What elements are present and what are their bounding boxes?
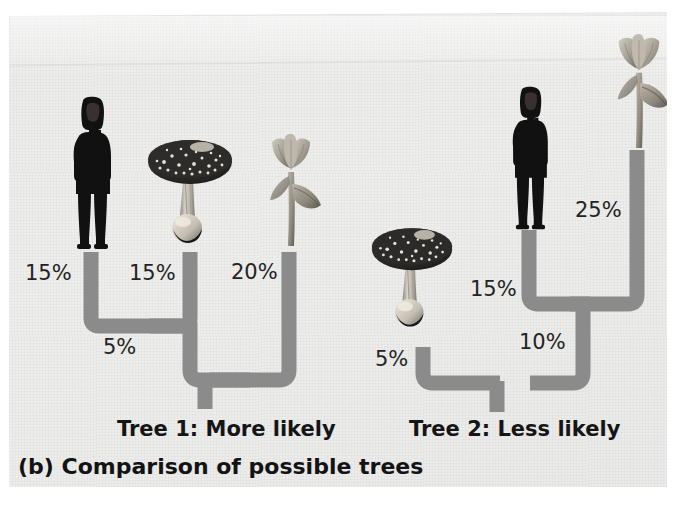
paper-edge-left [0, 0, 9, 507]
mushroom-icon [146, 125, 236, 253]
branch-label-tree2-tulip: 25% [575, 200, 622, 221]
tree-2-caption: Tree 2: Less likely [409, 419, 620, 440]
mushroom-icon [370, 213, 456, 337]
branch-label-tree2-mushroom: 5% [375, 349, 408, 370]
branch-label-tree1-tulip: 20% [231, 262, 278, 283]
figure-caption: (b) Comparison of possible trees [18, 456, 423, 478]
paper-edge-top [0, 0, 681, 11]
tulip-icon [258, 126, 324, 252]
branch-label-tree1-mushroom: 15% [129, 263, 176, 284]
branch-label-tree2-internal: 10% [519, 332, 566, 353]
person-silhouette-icon [66, 94, 118, 254]
branch-label-tree2-human: 15% [470, 279, 517, 300]
tree-1-caption: Tree 1: More likely [117, 419, 336, 440]
person-silhouette-icon [505, 84, 555, 234]
tulip-icon [604, 26, 674, 154]
figure-panel: 15% 15% 20% 5% 5% 15% 10% 25% Tree 1: Mo… [0, 0, 681, 507]
branch-label-tree1-human: 15% [25, 263, 72, 284]
paper-edge-right [667, 0, 681, 507]
branch-label-tree1-internal: 5% [103, 337, 136, 358]
paper-edge-bottom [8, 487, 676, 507]
